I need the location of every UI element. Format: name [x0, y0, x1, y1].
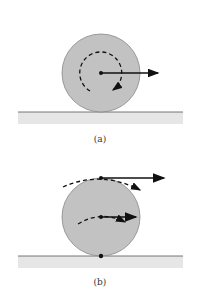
contact-dot — [99, 254, 103, 258]
panel-b — [18, 176, 183, 268]
panel-a-label: (a) — [0, 134, 200, 144]
panel-b-label: (b) — [0, 277, 200, 287]
center-dot-b — [99, 215, 103, 219]
top-dot — [99, 176, 103, 180]
rolling-wheel-diagram — [0, 0, 200, 289]
ground-a — [18, 112, 183, 124]
panel-a — [18, 34, 183, 124]
center-dot-a — [99, 71, 103, 75]
